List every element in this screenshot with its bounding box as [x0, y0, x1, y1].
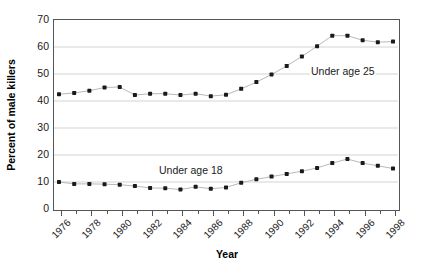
x-tick-mark	[76, 211, 77, 214]
data-point	[391, 40, 395, 44]
x-tick-mark	[167, 211, 168, 214]
data-series-layer	[57, 34, 395, 192]
x-tick-label: 1980	[105, 217, 134, 246]
x-tick-label: 1986	[196, 217, 225, 246]
data-point	[315, 44, 319, 48]
data-point	[87, 89, 91, 93]
data-point	[194, 92, 198, 96]
x-tick-mark	[365, 211, 366, 216]
data-point	[376, 164, 380, 168]
x-tick-label: 1988	[226, 217, 255, 246]
data-point	[239, 87, 243, 91]
data-point	[270, 175, 274, 179]
data-point	[300, 169, 304, 173]
plot-svg	[54, 20, 398, 209]
data-point	[209, 187, 213, 191]
data-point	[285, 172, 289, 176]
x-tick-label: 1996	[347, 217, 376, 246]
x-tick-mark	[107, 211, 108, 214]
data-point	[194, 185, 198, 189]
data-point	[118, 85, 122, 89]
data-point	[376, 40, 380, 44]
data-point	[103, 86, 107, 90]
y-axis-title-text: Percent of male killers	[5, 59, 17, 170]
x-tick-label: 1976	[44, 217, 73, 246]
x-tick-mark	[304, 211, 305, 216]
x-tick-label: 1982	[135, 217, 164, 246]
y-tick-label: 70	[23, 14, 49, 24]
data-point	[239, 181, 243, 185]
data-point	[57, 92, 61, 96]
x-tick-mark	[395, 211, 396, 216]
plot-area	[53, 19, 400, 211]
x-tick-mark	[258, 211, 259, 214]
data-point	[178, 93, 182, 97]
data-point	[163, 186, 167, 190]
data-point	[103, 182, 107, 186]
data-point	[300, 54, 304, 58]
x-tick-label: 1994	[317, 217, 346, 246]
data-point	[345, 157, 349, 161]
data-point	[285, 64, 289, 68]
data-point	[224, 185, 228, 189]
data-point	[330, 161, 334, 165]
x-tick-mark	[91, 211, 92, 216]
series-line-2	[59, 159, 393, 190]
data-point	[270, 73, 274, 77]
data-point	[118, 183, 122, 187]
x-tick-mark	[319, 211, 320, 214]
data-point	[148, 92, 152, 96]
data-point	[315, 166, 319, 170]
x-tick-mark	[182, 211, 183, 216]
data-point	[148, 186, 152, 190]
x-tick-label: 1984	[165, 217, 194, 246]
data-point	[361, 38, 365, 42]
x-tick-mark	[228, 211, 229, 214]
data-point	[391, 167, 395, 171]
series-annotation-under-25: Under age 25	[310, 65, 376, 77]
data-point	[224, 93, 228, 97]
x-tick-mark	[152, 211, 153, 216]
data-point	[178, 188, 182, 192]
series-annotation-under-18: Under age 18	[158, 164, 224, 176]
data-point	[87, 182, 91, 186]
x-tick-mark	[349, 211, 350, 214]
data-point	[133, 93, 137, 97]
x-tick-mark	[198, 211, 199, 214]
data-point	[72, 91, 76, 95]
x-tick-mark	[213, 211, 214, 216]
data-point	[254, 177, 258, 181]
x-tick-label: 1992	[287, 217, 316, 246]
x-tick-label: 1978	[74, 217, 103, 246]
x-axis-tick-labels: 1976197819801982198419861988199019921994…	[53, 211, 400, 251]
data-point	[163, 92, 167, 96]
x-tick-mark	[334, 211, 335, 216]
x-axis-title: Year	[53, 248, 401, 260]
y-tick-label: 20	[23, 149, 49, 159]
data-point	[361, 161, 365, 165]
x-tick-mark	[380, 211, 381, 214]
x-axis-title-text: Year	[216, 248, 238, 260]
y-tick-label: 60	[23, 41, 49, 51]
data-point	[345, 34, 349, 38]
x-tick-label: 1990	[256, 217, 285, 246]
data-point	[330, 34, 334, 38]
x-tick-mark	[122, 211, 123, 216]
y-tick-label: 40	[23, 95, 49, 105]
x-tick-label: 1998	[378, 217, 407, 246]
y-tick-label: 30	[23, 122, 49, 132]
data-point	[133, 184, 137, 188]
y-tick-label: 50	[23, 68, 49, 78]
y-tick-label: 10	[23, 176, 49, 186]
x-tick-mark	[137, 211, 138, 214]
data-point	[57, 180, 61, 184]
x-tick-mark	[274, 211, 275, 216]
y-axis-tick-labels: 706050403020100	[19, 19, 49, 211]
data-point	[254, 80, 258, 84]
chart-figure: Percent of male killers 706050403020100 …	[0, 0, 426, 273]
data-point	[209, 94, 213, 98]
y-tick-label: 0	[23, 203, 49, 213]
x-tick-mark	[289, 211, 290, 214]
x-tick-mark	[61, 211, 62, 216]
x-tick-mark	[243, 211, 244, 216]
